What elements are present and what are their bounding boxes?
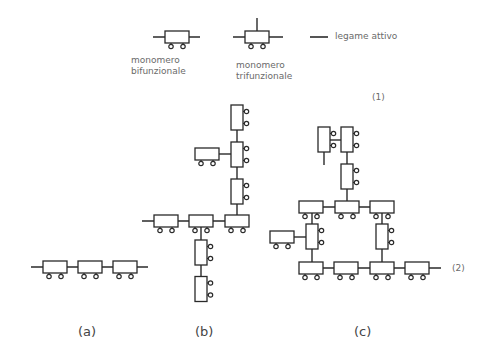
panel-b-label: (b): [195, 324, 213, 339]
legend-bifunctional-label: monomero bifunzionale: [131, 55, 186, 77]
legend-active-bond-label: legame attivo: [335, 31, 397, 42]
equation-mark-1: (1): [372, 92, 385, 103]
panel-a-label: (a): [78, 324, 96, 339]
legend-bifunctional-monomer-icon: [153, 31, 200, 49]
legend-bifunctional-line1: monomero: [131, 55, 186, 66]
panel-c-crosslinked-network: [270, 127, 441, 280]
panel-c-label: (c): [354, 324, 371, 339]
panel-b-branched-polymer: [142, 105, 249, 302]
legend-bifunctional-line2: bifunzionale: [131, 66, 186, 77]
panel-a-linear-chain: [31, 261, 148, 279]
legend-trifunctional-line2: trifunzionale: [236, 71, 292, 82]
legend-trifunctional-label: monomero trifunzionale: [236, 60, 292, 82]
equation-mark-2: (2): [452, 263, 465, 274]
legend-trifunctional-monomer-icon: [233, 18, 283, 49]
legend-trifunctional-line1: monomero: [236, 60, 292, 71]
polymer-diagram: [0, 0, 489, 362]
